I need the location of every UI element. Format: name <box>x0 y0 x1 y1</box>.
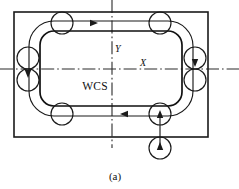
cutter-circle-left-upper <box>17 47 39 69</box>
figure-container: Y X WCS (a) <box>0 0 239 189</box>
y-axis-label: Y <box>115 43 122 54</box>
lead-in-direction-arrow <box>157 110 163 118</box>
entry-circle-direction-arrow <box>157 142 163 150</box>
left-side-direction-arrow <box>25 70 31 78</box>
cutter-circle-right-lower <box>184 69 206 91</box>
cutter-path-diagram: Y X WCS (a) <box>0 0 239 189</box>
x-axis-label: X <box>139 57 147 68</box>
figure-caption: (a) <box>109 170 122 183</box>
wcs-origin-label: WCS <box>82 80 108 92</box>
